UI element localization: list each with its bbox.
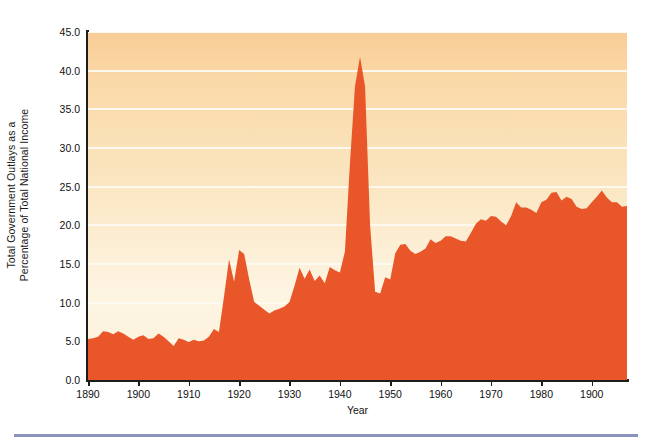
footer-rule <box>14 434 638 437</box>
y-axis-title-line2: Percentage of Total National Income <box>18 109 31 282</box>
x-tick-label: 1930 <box>278 388 301 400</box>
x-tick-mark <box>441 380 443 386</box>
y-tick-label: 15.0 <box>60 258 80 270</box>
y-tick-label: 45.0 <box>60 26 80 38</box>
y-tick-label: 5.0 <box>65 335 80 347</box>
y-tick-label: 40.0 <box>60 65 80 77</box>
x-tick-mark <box>390 380 392 386</box>
x-tick-label: 1960 <box>429 388 452 400</box>
x-tick-mark <box>541 380 543 386</box>
y-tick-label: 25.0 <box>60 181 80 193</box>
x-tick-mark <box>138 380 140 386</box>
x-tick-label: 1920 <box>227 388 250 400</box>
x-tick-mark <box>189 380 191 386</box>
chart-figure: Total Government Outlays as a Percentage… <box>0 0 652 447</box>
area-series-path <box>88 57 627 380</box>
y-tick-label: 10.0 <box>60 297 80 309</box>
x-tick-label: 1910 <box>177 388 200 400</box>
y-tick-label: 35.0 <box>60 103 80 115</box>
x-tick-mark <box>592 380 594 386</box>
x-tick-label: 1970 <box>479 388 502 400</box>
x-tick-mark <box>88 380 90 386</box>
x-tick-mark <box>491 380 493 386</box>
x-axis-title: Year <box>88 404 627 416</box>
y-axis-title: Total Government Outlays as a Percentage… <box>0 0 36 390</box>
x-tick-label: 1890 <box>76 388 99 400</box>
y-axis-tick-labels: 0.05.010.015.020.025.030.035.040.045.0 <box>36 0 86 447</box>
plot-area <box>88 32 627 380</box>
x-tick-label: 1940 <box>328 388 351 400</box>
x-tick-mark <box>340 380 342 386</box>
y-tick-label: 20.0 <box>60 219 80 231</box>
y-axis-title-line1: Total Government Outlays as a <box>5 109 18 282</box>
x-tick-mark <box>289 380 291 386</box>
x-tick-label: 1900 <box>580 388 603 400</box>
x-tick-label: 1980 <box>530 388 553 400</box>
x-tick-label: 1900 <box>127 388 150 400</box>
x-tick-label: 1950 <box>379 388 402 400</box>
y-tick-label: 0.0 <box>65 374 80 386</box>
x-tick-mark <box>239 380 241 386</box>
area-series <box>88 32 627 380</box>
y-tick-label: 30.0 <box>60 142 80 154</box>
